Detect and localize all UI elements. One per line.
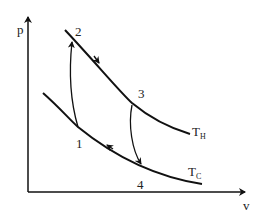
point-4-label: 4 (137, 177, 144, 192)
point-1-label: 1 (76, 136, 83, 151)
hot-isotherm-label-sub: H (200, 132, 206, 141)
cold-isotherm-label-sub: C (196, 172, 201, 181)
point-2-label: 2 (75, 24, 82, 39)
cold-isotherm-label: TC (188, 164, 201, 181)
y-axis-label: p (17, 22, 24, 37)
process-1-2-adiabat (70, 42, 78, 127)
hot-isotherm-label-main: T (192, 124, 200, 139)
point-3-label: 3 (138, 86, 145, 101)
pv-diagram: p v 2 3 1 4 TH TC (0, 0, 268, 222)
cold-isotherm-curve (43, 93, 202, 184)
hot-isotherm-curve (65, 30, 190, 134)
process-3-4-adiabat (130, 105, 141, 164)
x-axis-label: v (243, 198, 250, 213)
cold-isotherm-label-main: T (188, 164, 196, 179)
hot-isotherm-label: TH (192, 124, 206, 141)
